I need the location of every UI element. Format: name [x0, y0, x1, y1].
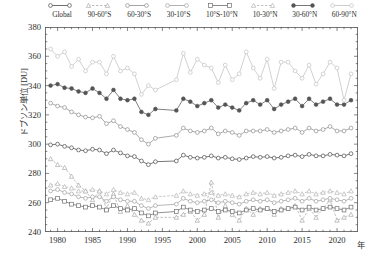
- legend-item-Global[interactable]: Global: [46, 1, 78, 19]
- y-tick-label: 260: [17, 199, 41, 207]
- legend-label: 10-30°N: [253, 10, 278, 19]
- legend-label: 10°S-10°N: [206, 10, 238, 19]
- series-60-30°S: [49, 101, 353, 146]
- legend-marker-icon: [124, 1, 154, 10]
- legend-item-60-30°S[interactable]: 60-30°S: [121, 1, 157, 19]
- series-60-90°N: [49, 47, 353, 102]
- x-tick-label: 2020: [317, 236, 357, 245]
- chart-legend: Global90-60°S60-30°S30-10°S10°S-10°N10-3…: [46, 1, 366, 23]
- ozone-timeseries-chart: Global90-60°S60-30°S30-10°S10°S-10°N10-3…: [0, 0, 374, 259]
- x-axis-title: 年: [357, 238, 365, 250]
- legend-marker-icon: [329, 1, 359, 10]
- x-axis-tick-labels: 198019851990199520002005201020152020: [0, 236, 374, 250]
- legend-marker-icon: [250, 1, 280, 10]
- legend-marker-icon: [164, 1, 194, 10]
- y-axis-title: ドブソン単位 [DU]: [17, 32, 29, 172]
- legend-marker-icon: [47, 1, 77, 10]
- legend-item-60-90°N[interactable]: 60-90°N: [326, 1, 362, 19]
- legend-marker-icon: [85, 1, 115, 10]
- legend-label: Global: [52, 10, 72, 19]
- legend-label: 90-60°S: [88, 10, 112, 19]
- series-Global: [49, 142, 353, 166]
- legend-marker-icon: [207, 1, 237, 10]
- plot-area: [45, 27, 358, 232]
- legend-label: 30-60°N: [292, 10, 317, 19]
- legend-marker-icon: [290, 1, 320, 10]
- y-tick-label: 380: [17, 23, 41, 31]
- legend-item-30-60°N[interactable]: 30-60°N: [287, 1, 323, 19]
- legend-item-90-60°S[interactable]: 90-60°S: [82, 1, 118, 19]
- legend-label: 30-10°S: [167, 10, 191, 19]
- legend-item-30-10°S[interactable]: 30-10°S: [161, 1, 197, 19]
- y-tick-label: 240: [17, 228, 41, 236]
- legend-label: 60-30°S: [127, 10, 151, 19]
- series-30-60°N: [49, 82, 353, 117]
- plot-svg: [45, 27, 358, 232]
- legend-label: 60-90°N: [332, 10, 357, 19]
- legend-item-10°S-10°N[interactable]: 10°S-10°N: [200, 1, 243, 19]
- legend-item-10-30°N[interactable]: 10-30°N: [247, 1, 283, 19]
